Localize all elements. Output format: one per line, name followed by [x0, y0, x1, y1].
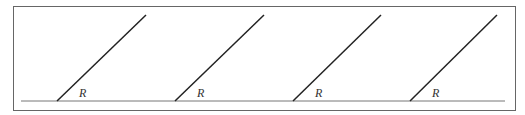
ray-1 — [57, 15, 146, 101]
ray-2 — [175, 15, 264, 101]
angle-label-r: R — [431, 86, 440, 100]
ray-3 — [293, 15, 381, 101]
ray-4 — [410, 15, 497, 101]
angle-label-r: R — [314, 86, 323, 100]
frame-border — [14, 7, 516, 111]
angle-label-r: R — [196, 86, 205, 100]
diagram-canvas: RRRR — [0, 0, 525, 115]
angle-label-r: R — [78, 86, 87, 100]
